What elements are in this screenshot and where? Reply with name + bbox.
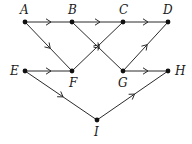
edge-g-to-h [123,68,168,74]
edge-e-to-f [25,68,72,74]
node-label-e: E [9,64,19,78]
edge-g-to-d [123,22,168,71]
node-g [121,69,126,74]
node-label-c: C [119,3,128,17]
node-label-g: G [118,76,128,90]
directed-graph-diagram: ABCDEFGHI [0,0,192,144]
node-c [121,20,126,25]
edge-c-to-d [123,19,168,25]
node-label-d: D [162,3,173,17]
arrowhead-icon [57,91,63,96]
edges-layer [25,19,168,120]
edge-e-to-i [25,71,97,120]
node-e [23,69,28,74]
node-b [70,20,75,25]
node-a [23,20,28,25]
node-label-b: B [67,3,77,17]
node-label-f: F [68,76,78,90]
node-d [166,20,171,25]
node-label-i: I [93,125,99,139]
edge-i-to-h [97,71,168,120]
edge-b-to-c [72,19,123,25]
node-h [166,69,171,74]
node-label-a: A [19,3,29,17]
node-i [95,118,100,123]
node-f [70,69,75,74]
node-label-h: H [174,64,186,78]
edge-a-to-b [25,19,72,25]
edge-a-to-f [25,22,72,71]
